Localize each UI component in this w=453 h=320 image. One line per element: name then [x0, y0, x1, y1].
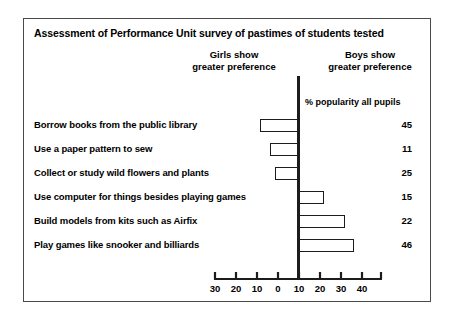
row-value: 25	[380, 167, 412, 178]
bar-girls	[275, 167, 298, 180]
axis-tick-label: 10	[246, 283, 268, 294]
row-value: 15	[380, 191, 412, 202]
chart-frame: Assessment of Performance Unit survey of…	[23, 18, 431, 302]
row-label: Use a paper pattern to sew	[34, 143, 152, 154]
percent-column-header: % popularity all pupils	[305, 97, 401, 107]
row-label: Collect or study wild flowers and plants	[34, 167, 209, 178]
row-label: Use computer for things besides playing …	[34, 191, 246, 202]
row-value: 11	[380, 143, 412, 154]
axis-svg	[24, 261, 432, 301]
bar-boys	[299, 215, 345, 228]
axis-tick-label: 20	[225, 283, 247, 294]
girls-header-line1: Girls show	[174, 49, 294, 61]
boys-header-line2: greater preference	[305, 61, 435, 73]
chart-title: Assessment of Performance Unit survey of…	[34, 27, 384, 39]
axis-tick-label: 30	[204, 283, 226, 294]
axis-tick-label: 10	[288, 283, 310, 294]
boys-header-line1: Boys show	[305, 49, 435, 61]
row-value: 45	[380, 119, 412, 130]
girls-header-line2: greater preference	[174, 61, 294, 73]
axis-tick-label: 40	[351, 283, 373, 294]
girls-preference-header: Girls show greater preference	[174, 49, 294, 72]
row-label: Play games like snooker and billiards	[34, 239, 199, 250]
row-label: Build models from kits such as Airfix	[34, 215, 197, 226]
bar-boys	[299, 191, 324, 204]
axis-tick-label: 0	[267, 283, 289, 294]
axis-tick-label: 20	[309, 283, 331, 294]
chart-page: Assessment of Performance Unit survey of…	[0, 0, 453, 320]
boys-preference-header: Boys show greater preference	[305, 49, 435, 72]
axis-tick-label: 30	[330, 283, 352, 294]
row-value: 46	[380, 239, 412, 250]
bar-boys	[299, 239, 354, 252]
bar-girls	[260, 119, 298, 132]
row-value: 22	[380, 215, 412, 226]
row-label: Borrow books from the public library	[34, 119, 197, 130]
bar-girls	[270, 143, 298, 156]
